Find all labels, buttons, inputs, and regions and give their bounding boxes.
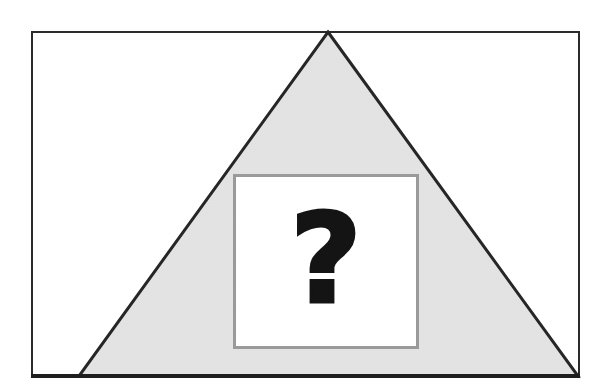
figure-canvas: ? (0, 0, 613, 387)
question-mark-icon: ? (290, 198, 362, 322)
question-mark-container: ? (233, 174, 419, 349)
frame-bottom-rule (31, 374, 580, 378)
